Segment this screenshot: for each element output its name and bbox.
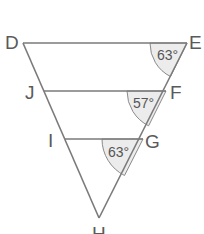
angle-value-E: 63° xyxy=(157,47,178,63)
vertex-label-J: J xyxy=(25,82,35,103)
vertex-label-H: H xyxy=(92,223,106,234)
vertex-label-F: F xyxy=(170,82,182,103)
vertex-label-D: D xyxy=(5,32,19,53)
vertex-label-G: G xyxy=(145,131,160,152)
segment-DH xyxy=(23,43,99,218)
angle-value-G: 63° xyxy=(108,144,129,160)
vertex-label-E: E xyxy=(189,32,202,53)
vertex-label-I: I xyxy=(48,130,53,151)
angle-value-F: 57° xyxy=(133,95,154,111)
segment-EH xyxy=(99,43,187,218)
triangle-diagram: 63° 57° 63° D E J F I G H y xyxy=(0,0,204,234)
